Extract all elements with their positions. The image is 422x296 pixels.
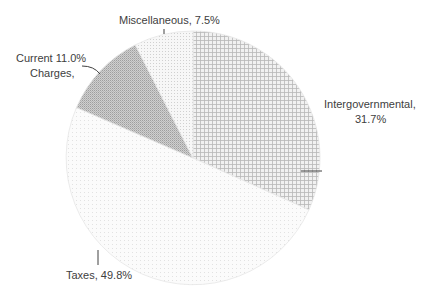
label-intergovernmental: Intergovernmental, 31.7% — [324, 98, 419, 125]
label-miscellaneous: Miscellaneous, 7.5% — [119, 14, 220, 26]
label-taxes: Taxes, 49.8% — [66, 269, 132, 281]
label-current-charges: Current 11.0% Charges, — [16, 52, 89, 79]
pie-chart: Intergovernmental, 31.7% Taxes, 49.8% Cu… — [0, 0, 422, 296]
pie-slices — [66, 31, 320, 285]
